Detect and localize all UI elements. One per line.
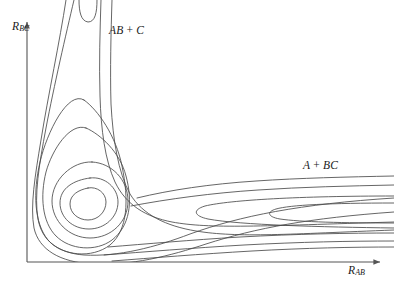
contour-line	[52, 162, 128, 238]
contour-line	[43, 127, 130, 248]
reactant-channel-label: A + BC	[303, 159, 338, 171]
x-axis-label: RAB	[348, 264, 365, 277]
axes	[27, 22, 380, 262]
contour-lines	[33, 0, 394, 264]
contour-line	[79, 0, 97, 22]
y-axis-label-subscript: BC	[19, 24, 29, 33]
contour-line	[270, 203, 394, 223]
x-axis-label-subscript: AB	[355, 268, 365, 277]
contour-line	[60, 178, 118, 229]
contour-line	[70, 188, 106, 220]
reactant-species-right: BC	[323, 159, 338, 171]
product-species-left: AB	[109, 24, 123, 36]
contour-line	[33, 0, 394, 264]
product-species-right: C	[136, 24, 144, 36]
pes-contour-figure: RBC RAB AB + C A + BC	[0, 0, 394, 290]
product-plus-operator: +	[123, 24, 136, 36]
contour-line	[112, 247, 394, 261]
contour-line	[137, 176, 394, 198]
contour-line	[131, 185, 394, 206]
product-channel-label: AB + C	[109, 24, 144, 36]
contour-plot-canvas	[0, 0, 394, 290]
y-axis-label: RBC	[12, 20, 29, 33]
reactant-plus-operator: +	[310, 159, 323, 171]
contour-line	[111, 0, 394, 235]
